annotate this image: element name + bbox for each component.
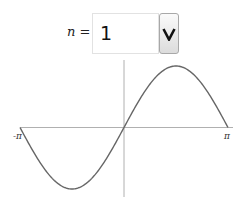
- sine-plot: -π π: [0, 0, 245, 202]
- x-tick-pi: π: [223, 131, 231, 141]
- x-tick-neg-pi: -π: [13, 131, 23, 141]
